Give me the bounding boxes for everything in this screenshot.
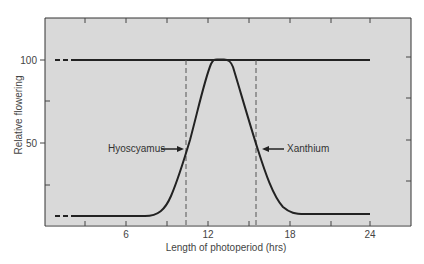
x-tick-18: 18 (284, 229, 296, 240)
xanthium-label: Xanthium (287, 143, 329, 154)
y-tick-50: 50 (26, 138, 38, 149)
photoperiod-chart: 6 12 18 24 50 100 Length of photoperiod … (0, 0, 424, 264)
x-axis-title: Length of photoperiod (hrs) (166, 242, 287, 253)
plot-area (45, 18, 411, 225)
x-tick-6: 6 (123, 229, 129, 240)
y-tick-100: 100 (20, 55, 37, 66)
y-axis-title: Relative flowering (13, 76, 24, 155)
x-tick-12: 12 (202, 229, 214, 240)
hyoscyamus-label: Hyoscyamus (108, 143, 165, 154)
x-tick-24: 24 (364, 229, 376, 240)
